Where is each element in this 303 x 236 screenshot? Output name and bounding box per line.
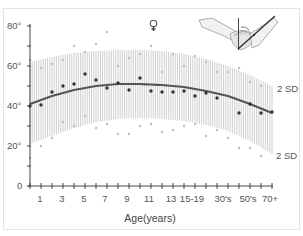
x-axis-title: Age(years) bbox=[124, 212, 175, 224]
y-tick-label: 0 bbox=[17, 180, 22, 191]
y-tick-label: 80° bbox=[7, 20, 22, 31]
y-tick-label: 20° bbox=[7, 140, 22, 151]
sd-band bbox=[30, 50, 272, 154]
x-tick-label: 7 bbox=[102, 193, 107, 204]
x-tick-label: 15-19 bbox=[180, 193, 204, 204]
shoulder-rom-illustration-icon bbox=[199, 16, 278, 50]
x-tick-label: 1 bbox=[37, 193, 42, 204]
x-tick-label: 11 bbox=[144, 193, 154, 204]
x-tick-label: 3 bbox=[59, 193, 64, 204]
female-symbol-icon bbox=[150, 20, 156, 31]
age-angle-chart: 80° 60° 40° 20° 0 1 3 5 7 9 11 13 15-19 … bbox=[0, 0, 303, 236]
x-tick-label: 50's bbox=[239, 193, 256, 204]
upper-sd-label: 2 SD bbox=[277, 83, 298, 94]
y-tick-label: 40° bbox=[7, 100, 22, 111]
lower-sd-label: 2 SD bbox=[276, 150, 297, 161]
x-tick-label: 9 bbox=[124, 193, 129, 204]
x-tick-label: 30's bbox=[214, 193, 231, 204]
y-tick-label: 60° bbox=[7, 60, 22, 71]
x-tick-label: 5 bbox=[81, 193, 86, 204]
x-tick-label: 70+ bbox=[262, 193, 279, 204]
x-tick-label: 13 bbox=[166, 193, 177, 204]
